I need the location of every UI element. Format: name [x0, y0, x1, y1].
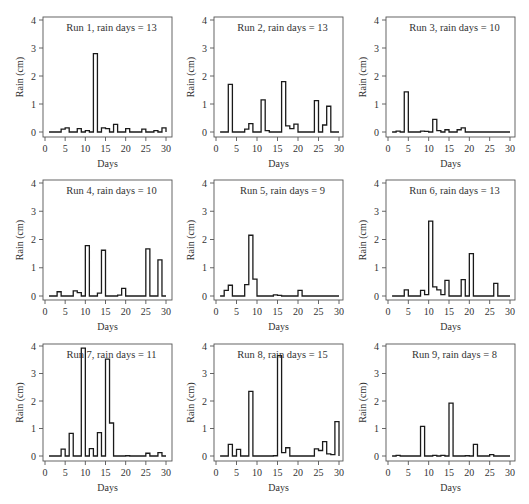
y-tick-label: 4 [374, 15, 379, 26]
x-tick-label: 0 [43, 306, 48, 317]
y-tick-label: 1 [202, 99, 207, 110]
plot-frame [43, 180, 172, 300]
rain-step-line [392, 92, 510, 132]
panel-run-6: 01234051015202530DaysRain (cm)Run 6, rai… [357, 178, 515, 333]
y-tick-label: 3 [31, 206, 36, 217]
y-axis-label: Rain (cm) [185, 382, 197, 422]
panel-title: Run 9, rain days = 8 [412, 349, 497, 360]
x-tick-label: 5 [63, 143, 68, 154]
y-tick-label: 1 [202, 262, 207, 273]
plot-frame [214, 344, 343, 461]
plot-frame [386, 344, 515, 461]
y-axis-label: Rain (cm) [357, 57, 369, 97]
y-axis-label: Rain (cm) [357, 382, 369, 422]
y-tick-label: 1 [202, 423, 207, 434]
x-tick-label: 15 [444, 306, 454, 317]
x-tick-label: 30 [505, 467, 515, 478]
y-tick-label: 2 [202, 396, 207, 407]
x-tick-label: 0 [214, 467, 219, 478]
y-tick-label: 1 [374, 262, 379, 273]
y-tick-label: 1 [31, 423, 36, 434]
x-tick-label: 0 [214, 306, 219, 317]
y-tick-label: 0 [31, 451, 36, 462]
y-tick-label: 2 [202, 234, 207, 245]
x-tick-label: 10 [424, 143, 434, 154]
rain-runs-figure: 01234051015202530DaysRain (cm)Run 1, rai… [0, 0, 529, 504]
y-tick-label: 1 [31, 99, 36, 110]
x-tick-label: 25 [141, 143, 151, 154]
y-axis-label: Rain (cm) [14, 382, 26, 422]
x-tick-label: 0 [386, 143, 391, 154]
small-multiples-chart: 01234051015202530DaysRain (cm)Run 1, rai… [0, 0, 529, 504]
plot-frame [214, 180, 343, 300]
x-tick-label: 5 [406, 467, 411, 478]
y-tick-label: 3 [374, 206, 379, 217]
x-tick-label: 25 [314, 306, 324, 317]
y-tick-label: 4 [202, 15, 207, 26]
panel-run-8: 01234051015202530DaysRain (cm)Run 8, rai… [185, 341, 344, 494]
x-tick-label: 5 [234, 467, 239, 478]
y-tick-label: 2 [374, 396, 379, 407]
y-axis-label: Rain (cm) [14, 57, 26, 97]
x-tick-label: 25 [485, 306, 495, 317]
rain-step-line [49, 348, 166, 456]
y-tick-label: 4 [31, 15, 36, 26]
x-tick-label: 0 [43, 143, 48, 154]
y-tick-label: 3 [374, 43, 379, 54]
y-tick-label: 3 [31, 43, 36, 54]
x-tick-label: 30 [334, 306, 344, 317]
x-tick-label: 5 [406, 143, 411, 154]
y-axis-label: Rain (cm) [185, 220, 197, 260]
rain-step-line [49, 54, 166, 132]
x-tick-label: 15 [444, 467, 454, 478]
x-tick-label: 30 [334, 467, 344, 478]
x-tick-label: 10 [424, 467, 434, 478]
y-tick-label: 1 [374, 423, 379, 434]
x-axis-label: Days [268, 158, 289, 169]
y-tick-label: 4 [202, 341, 207, 352]
x-tick-label: 15 [273, 143, 283, 154]
x-tick-label: 10 [80, 143, 90, 154]
x-tick-label: 15 [101, 143, 111, 154]
x-tick-label: 20 [121, 143, 131, 154]
y-axis-label: Rain (cm) [185, 57, 197, 97]
x-tick-label: 15 [101, 467, 111, 478]
y-tick-label: 0 [202, 451, 207, 462]
y-tick-label: 2 [374, 71, 379, 82]
panel-run-9: 01234051015202530DaysRain (cm)Run 9, rai… [357, 341, 515, 494]
y-tick-label: 3 [202, 206, 207, 217]
plot-frame [43, 344, 172, 461]
x-tick-label: 0 [386, 467, 391, 478]
x-axis-label: Days [97, 321, 118, 332]
x-tick-label: 10 [252, 143, 262, 154]
y-tick-label: 2 [31, 396, 36, 407]
x-axis-label: Days [440, 158, 461, 169]
x-tick-label: 10 [80, 306, 90, 317]
rain-step-line [392, 221, 510, 296]
x-tick-label: 0 [214, 143, 219, 154]
x-tick-label: 15 [101, 306, 111, 317]
x-tick-label: 20 [121, 467, 131, 478]
rain-step-line [49, 246, 166, 296]
rain-step-line [220, 82, 339, 132]
panel-run-1: 01234051015202530DaysRain (cm)Run 1, rai… [14, 15, 172, 170]
y-tick-label: 1 [31, 262, 36, 273]
y-tick-label: 2 [31, 71, 36, 82]
x-axis-label: Days [440, 321, 461, 332]
x-axis-label: Days [440, 482, 461, 493]
x-tick-label: 20 [121, 306, 131, 317]
y-tick-label: 4 [374, 341, 379, 352]
x-tick-label: 5 [63, 467, 68, 478]
x-tick-label: 25 [141, 306, 151, 317]
panel-run-3: 01234051015202530DaysRain (cm)Run 3, rai… [357, 15, 515, 170]
x-tick-label: 25 [314, 143, 324, 154]
panel-title: Run 5, rain days = 9 [240, 185, 325, 196]
panel-title: Run 7, rain days = 11 [66, 349, 156, 360]
y-tick-label: 4 [31, 178, 36, 189]
x-axis-label: Days [97, 158, 118, 169]
x-tick-label: 20 [464, 143, 474, 154]
y-tick-label: 0 [202, 291, 207, 302]
y-tick-label: 1 [374, 99, 379, 110]
x-tick-label: 20 [293, 306, 303, 317]
y-tick-label: 3 [31, 368, 36, 379]
